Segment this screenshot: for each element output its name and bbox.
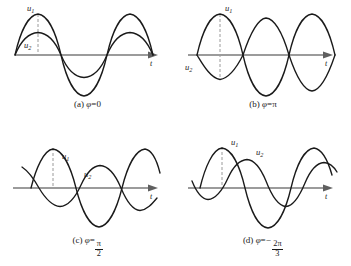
panel-c-caption-fraction: π2	[95, 240, 102, 258]
t-axis-arrowhead	[323, 184, 333, 191]
curve-label-u2: u2	[185, 62, 192, 73]
t-axis-label: t	[325, 59, 328, 68]
panel-a: u1 u2 t (a) φ=0	[0, 0, 175, 133]
t-axis-label: t	[150, 59, 153, 68]
panel-c: u1 u2 t (c) φ=π2	[0, 133, 175, 266]
panel-a-caption-prefix: (a)	[74, 99, 84, 109]
panel-c-caption-eq: =	[90, 235, 95, 245]
panel-d-caption-eq: =	[261, 235, 266, 245]
panel-b-plot: u1 u2 t	[175, 0, 351, 100]
t-axis-label: t	[325, 192, 328, 201]
panel-c-plot: u1 u2 t	[0, 133, 175, 238]
panel-b-caption-prefix: (b)	[249, 99, 260, 109]
fraction-denominator: 3	[274, 250, 281, 258]
t-axis-label: t	[150, 192, 153, 201]
panel-d: u1 u2 t (d) φ=−2π3	[175, 133, 351, 266]
panel-a-caption: (a) φ=0	[0, 100, 175, 109]
t-axis-arrowhead	[323, 51, 333, 58]
curve-label-u1: u1	[62, 151, 69, 162]
panel-b-caption-value: π	[272, 99, 277, 109]
panel-d-caption-prefix: (d)	[243, 235, 254, 245]
panel-d-caption: (d) φ=−2π3	[175, 236, 351, 258]
fraction-denominator: 2	[95, 250, 102, 258]
panel-d-caption-fraction: 2π3	[272, 240, 283, 258]
panel-a-caption-value: 0	[96, 99, 101, 109]
waveform-figure-grid: u1 u2 t (a) φ=0 u1 u2 t (b) φ=π	[0, 0, 351, 266]
curve-label-u1: u1	[27, 3, 34, 14]
curve-label-u2: u2	[24, 40, 31, 51]
panel-a-plot: u1 u2 t	[0, 0, 175, 100]
curve-u2	[192, 160, 337, 207]
panel-d-plot: u1 u2 t	[175, 133, 351, 238]
panel-b-caption: (b) φ=π	[175, 100, 351, 109]
curve-label-u1: u1	[231, 137, 238, 148]
curve-label-u1: u1	[225, 3, 232, 14]
panel-c-caption-prefix: (c)	[72, 235, 82, 245]
panel-c-caption: (c) φ=π2	[0, 236, 175, 258]
panel-b: u1 u2 t (b) φ=π	[175, 0, 351, 133]
panel-d-caption-sign: −	[266, 235, 271, 245]
curve-label-u2: u2	[256, 147, 263, 158]
t-axis-arrowhead	[148, 184, 158, 191]
